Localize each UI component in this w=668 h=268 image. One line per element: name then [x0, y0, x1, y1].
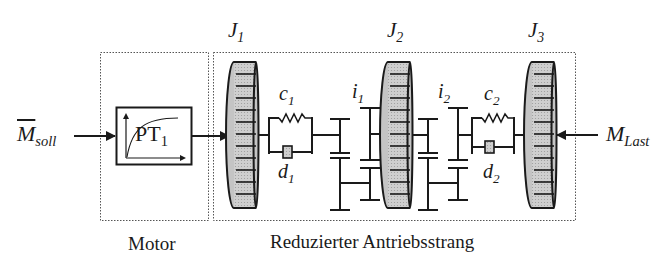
inertia-label-j1: J1: [228, 18, 244, 46]
drivetrain-diagram: [0, 0, 668, 268]
spring-c2: [482, 114, 514, 122]
damper-d1: [283, 146, 292, 158]
inertia-disc-j3: [524, 62, 557, 208]
spring-damper-1: [258, 114, 340, 158]
damper-label-d2: d2: [483, 160, 500, 187]
drivetrain-group-label: Reduzierter Antriebsstrang: [270, 231, 474, 253]
inertia-disc-j2: [380, 62, 413, 208]
damper-d2: [485, 141, 494, 153]
load-torque-label: MLast: [606, 121, 649, 150]
gear-label-i2: i2: [438, 80, 450, 107]
damper-label-d1: d1: [278, 160, 295, 187]
inertia-disc-j1: [226, 62, 259, 208]
spring-label-c2: c2: [484, 82, 499, 109]
spring-damper-2: [472, 114, 530, 154]
inertia-label-j2: J2: [387, 18, 403, 46]
spring-label-c1: c1: [279, 82, 294, 109]
input-torque-label: Msoll: [17, 121, 56, 150]
spring-c1: [279, 114, 312, 122]
pt1-label: PT1: [135, 121, 168, 150]
motor-group-label: Motor: [128, 233, 176, 255]
gear-label-i1: i1: [352, 80, 364, 107]
gear-stage-2: [412, 108, 472, 210]
inertia-label-j3: J3: [528, 18, 544, 46]
